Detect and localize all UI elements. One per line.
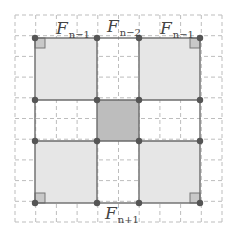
label-top-right: Fn−1 — [160, 20, 194, 40]
label-top-left: Fn−1 — [56, 20, 90, 40]
fibonacci-square-diagram: Fn−1 Fn−2 Fn−1 Fn+1 — [0, 0, 237, 237]
label-bottom-middle: Fn+1 — [105, 205, 139, 225]
label-top-middle: Fn−2 — [107, 18, 141, 38]
center-square — [97, 100, 139, 141]
